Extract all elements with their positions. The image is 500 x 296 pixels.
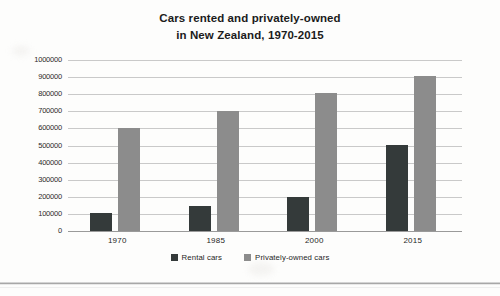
bar-rental-1970[interactable] bbox=[90, 213, 112, 231]
y-axis-tick-label: 100000 bbox=[6, 210, 62, 218]
bar-private-2015[interactable] bbox=[414, 76, 436, 231]
x-axis-label-1970: 1970 bbox=[72, 236, 162, 245]
x-axis-label-1985: 1985 bbox=[171, 236, 261, 245]
bar-group-2000 bbox=[287, 60, 337, 231]
chart-title-line-2: in New Zealand, 1970-2015 bbox=[0, 27, 500, 44]
page-bottom-edge bbox=[0, 282, 500, 285]
y-axis-tick-label: 500000 bbox=[6, 142, 62, 150]
scanned-page: Cars rented and privately-owned in New Z… bbox=[0, 0, 500, 296]
legend-label: Rental cars bbox=[182, 253, 223, 262]
y-axis-tick-label: 800000 bbox=[6, 90, 62, 98]
y-axis-tick-label: 900000 bbox=[6, 73, 62, 81]
y-axis-tick-label: 1000000 bbox=[6, 56, 62, 64]
y-axis-tick-label: 600000 bbox=[6, 124, 62, 132]
legend-label: Privately-owned cars bbox=[255, 253, 329, 262]
chart-legend: Rental carsPrivately-owned cars bbox=[0, 253, 500, 262]
bar-private-1985[interactable] bbox=[217, 111, 239, 231]
bar-private-1970[interactable] bbox=[118, 128, 140, 231]
legend-swatch-icon bbox=[244, 254, 251, 261]
scan-smudge bbox=[248, 262, 274, 276]
bar-rental-1985[interactable] bbox=[189, 206, 211, 231]
x-axis-label-2015: 2015 bbox=[368, 236, 458, 245]
bar-group-1985 bbox=[189, 60, 239, 231]
bar-group-2015 bbox=[386, 60, 436, 231]
page-bottom-edge-shadow bbox=[0, 287, 500, 288]
gridline-0 bbox=[68, 231, 462, 232]
bar-chart-plot-area: 1000000900000800000700000600000500000400… bbox=[68, 60, 462, 231]
y-axis-tick-label: 300000 bbox=[6, 176, 62, 184]
chart-title-line-1: Cars rented and privately-owned bbox=[0, 10, 500, 27]
scan-smudge bbox=[12, 46, 30, 56]
legend-item[interactable]: Rental cars bbox=[171, 253, 223, 262]
chart-title: Cars rented and privately-owned in New Z… bbox=[0, 10, 500, 44]
y-axis-tick-label: 200000 bbox=[6, 193, 62, 201]
y-axis-tick-label: 400000 bbox=[6, 159, 62, 167]
legend-item[interactable]: Privately-owned cars bbox=[244, 253, 329, 262]
bar-rental-2015[interactable] bbox=[386, 145, 408, 231]
bar-group-1970 bbox=[90, 60, 140, 231]
y-axis-tick-label: 700000 bbox=[6, 107, 62, 115]
x-axis-label-2000: 2000 bbox=[269, 236, 359, 245]
y-axis-tick-label: 0 bbox=[6, 227, 62, 235]
legend-swatch-icon bbox=[171, 254, 178, 261]
bar-private-2000[interactable] bbox=[315, 93, 337, 231]
bar-rental-2000[interactable] bbox=[287, 197, 309, 231]
